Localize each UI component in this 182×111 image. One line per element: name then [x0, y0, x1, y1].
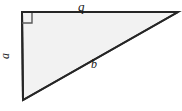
right-triangle-figure: q a b [0, 0, 182, 111]
triangle-left-leg [22, 12, 23, 100]
side-label-top: q [78, 0, 85, 13]
side-label-left: a [0, 53, 11, 59]
side-label-hypotenuse: b [91, 58, 97, 70]
triangle-graphic [0, 0, 182, 111]
